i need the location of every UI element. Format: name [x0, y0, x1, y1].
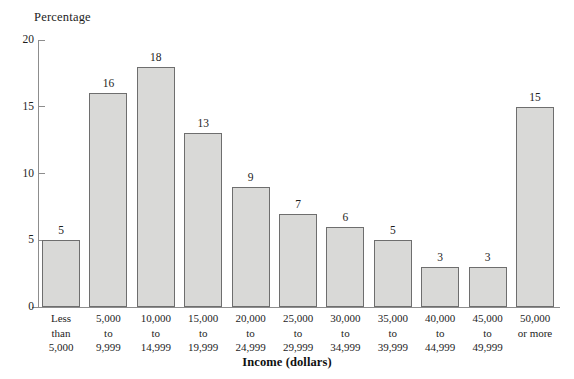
category-label-line: 50,000 — [505, 311, 565, 326]
bar-value-label: 13 — [174, 118, 232, 130]
bar — [326, 227, 364, 307]
y-axis-tick-label: 20 — [10, 34, 34, 46]
bar-value-label: 6 — [316, 212, 374, 224]
bar — [137, 67, 175, 307]
bar-value-label: 9 — [222, 172, 280, 184]
bar — [469, 267, 507, 307]
bar-chart: Percentage 05101520 516181397653315 Less… — [0, 0, 574, 379]
bar-value-label: 7 — [269, 199, 327, 211]
bar-value-label: 3 — [459, 252, 517, 264]
bar — [232, 187, 270, 307]
bar — [374, 240, 412, 307]
x-axis-category-label: 50,000or more — [505, 311, 565, 340]
bar — [89, 93, 127, 307]
y-axis-tick-mark — [39, 173, 45, 174]
bar — [421, 267, 459, 307]
bar — [279, 214, 317, 307]
x-axis-title: Income (dollars) — [0, 355, 574, 370]
bar — [42, 240, 80, 307]
bar-value-label: 5 — [32, 225, 90, 237]
x-axis-line — [32, 307, 560, 308]
bar-value-label: 5 — [364, 225, 422, 237]
y-axis-tick-mark — [39, 106, 45, 107]
y-axis-tick-label: 10 — [10, 168, 34, 180]
bar — [184, 133, 222, 307]
category-label-line: 49,999 — [458, 340, 518, 355]
bar-value-label: 16 — [79, 78, 137, 90]
y-axis-tick-label: 15 — [10, 101, 34, 113]
y-axis-line — [38, 40, 39, 308]
y-axis-tick-label: 5 — [10, 234, 34, 246]
bar-value-label: 15 — [506, 92, 564, 104]
bar-value-label: 18 — [127, 52, 185, 64]
category-label-line: or more — [505, 326, 565, 341]
y-axis-title: Percentage — [34, 10, 91, 25]
y-axis-tick-mark — [39, 40, 45, 41]
bar — [516, 107, 554, 307]
